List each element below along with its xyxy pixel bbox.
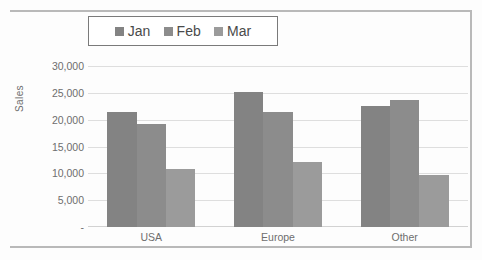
x-tick-label-other: Other [341, 231, 468, 243]
bar-usa-jan[interactable] [107, 112, 136, 227]
y-tick-label: 10,000 [28, 168, 84, 179]
legend-swatch-icon [115, 27, 124, 36]
bar-group-europe [234, 66, 322, 227]
bar-usa-mar[interactable] [166, 169, 195, 227]
frame-right-border [470, 10, 472, 248]
plot-area [88, 66, 468, 227]
bar-europe-feb[interactable] [263, 112, 292, 227]
frame-top-border [10, 10, 472, 12]
legend-label: Jan [128, 24, 151, 38]
chart-legend: JanFebMar [88, 16, 278, 46]
legend-entry-mar[interactable]: Mar [214, 24, 251, 38]
legend-entry-jan[interactable]: Jan [115, 24, 151, 38]
x-axis-tick-labels: USAEuropeOther [88, 231, 468, 247]
y-axis-title: Sales [14, 85, 25, 112]
y-tick-label: - [28, 222, 84, 233]
x-tick-label-usa: USA [88, 231, 215, 243]
chart-figure: JanFebMar Sales -5,00010,00015,00020,000… [0, 0, 482, 260]
bar-group-usa [107, 66, 195, 227]
bar-other-feb[interactable] [390, 100, 419, 227]
y-tick-label: 5,000 [28, 195, 84, 206]
bar-usa-feb[interactable] [137, 124, 166, 227]
legend-label: Mar [227, 24, 251, 38]
bar-group-other [361, 66, 449, 227]
x-tick-label-europe: Europe [215, 231, 342, 243]
bar-other-jan[interactable] [361, 106, 390, 227]
y-tick-label: 30,000 [28, 61, 84, 72]
bar-europe-jan[interactable] [234, 92, 263, 227]
y-axis-tick-labels: -5,00010,00015,00020,00025,00030,000 [28, 60, 84, 232]
bar-other-mar[interactable] [419, 175, 448, 227]
legend-swatch-icon [214, 27, 223, 36]
bar-europe-mar[interactable] [293, 162, 322, 227]
y-tick-label: 15,000 [28, 142, 84, 153]
legend-entry-feb[interactable]: Feb [164, 24, 201, 38]
legend-label: Feb [177, 24, 201, 38]
y-tick-label: 25,000 [28, 88, 84, 99]
legend-swatch-icon [164, 27, 173, 36]
y-tick-label: 20,000 [28, 115, 84, 126]
